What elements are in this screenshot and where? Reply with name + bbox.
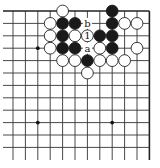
point-label-b: b <box>83 18 92 29</box>
white-stone <box>94 42 106 54</box>
svg-text:b: b <box>84 18 90 29</box>
white-stone <box>106 55 118 67</box>
star-point <box>110 121 114 125</box>
star-point <box>36 121 40 125</box>
svg-text:a: a <box>84 43 90 54</box>
point-label-a: a <box>83 43 92 54</box>
black-stone <box>106 5 118 17</box>
white-stone <box>69 30 81 42</box>
white-stone <box>57 5 69 17</box>
star-point <box>36 46 40 50</box>
white-stone-numbered: 1 <box>82 30 94 42</box>
white-stone <box>131 42 143 54</box>
black-stone <box>69 18 81 30</box>
black-stone <box>69 42 81 54</box>
stone-number: 1 <box>84 30 90 41</box>
white-stone <box>82 67 94 79</box>
white-stone <box>119 55 131 67</box>
white-stone <box>119 18 131 30</box>
white-stone <box>57 55 69 67</box>
black-stone <box>57 42 69 54</box>
black-stone <box>106 18 118 30</box>
white-stone <box>44 42 56 54</box>
go-board: 1 ba <box>0 0 160 168</box>
black-stone <box>106 42 118 54</box>
black-stone <box>57 30 69 42</box>
black-stone <box>82 55 94 67</box>
white-stone <box>44 30 56 42</box>
stones-layer: 1 <box>44 5 143 79</box>
black-stone <box>94 30 106 42</box>
black-stone <box>57 18 69 30</box>
white-stone <box>44 18 56 30</box>
white-stone <box>94 55 106 67</box>
white-stone <box>69 55 81 67</box>
white-stone <box>131 18 143 30</box>
black-stone <box>106 30 118 42</box>
